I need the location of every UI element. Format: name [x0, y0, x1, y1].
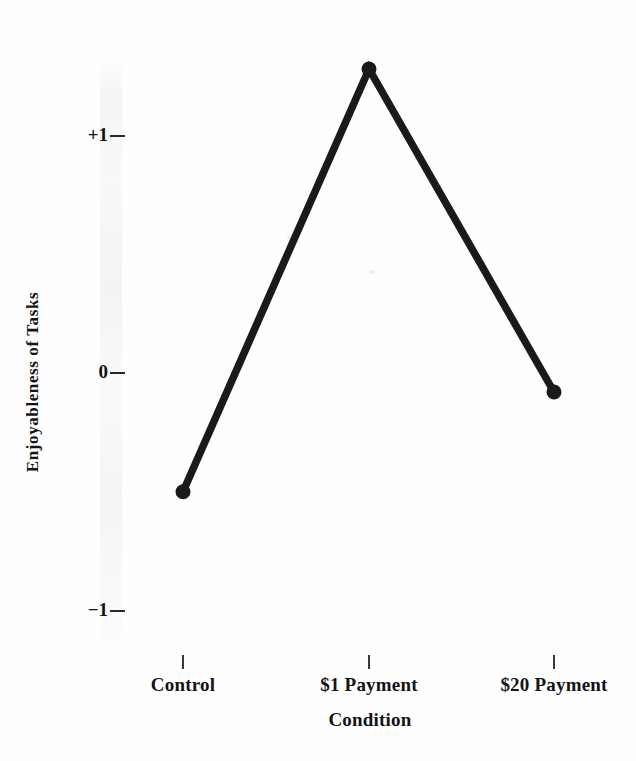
data-line	[183, 69, 554, 492]
data-point-marker	[547, 385, 562, 400]
y-tick-mark	[110, 135, 125, 137]
x-tick-label: $1 Payment	[320, 674, 418, 696]
x-tick-label: Control	[151, 674, 215, 696]
y-tick-label: −1	[88, 599, 108, 621]
y-tick-label: +1	[88, 124, 108, 146]
x-tick-mark	[553, 655, 555, 669]
data-point-marker	[176, 484, 191, 499]
x-axis-title: Condition	[328, 709, 411, 731]
x-tick-mark	[368, 655, 370, 669]
data-marker-group	[176, 62, 562, 500]
line-plot-canvas	[0, 0, 636, 761]
x-tick-mark	[182, 655, 184, 669]
data-point-marker	[362, 62, 377, 77]
y-axis-title: Enjoyableness of Tasks	[23, 292, 43, 472]
y-tick-mark	[110, 372, 125, 374]
chart-figure: Enjoyableness of Tasks +1 0 −1 Control $…	[0, 0, 636, 761]
x-tick-label: $20 Payment	[500, 674, 607, 696]
y-tick-mark	[110, 610, 125, 612]
scan-speck	[287, 236, 291, 239]
y-tick-label: 0	[99, 361, 109, 383]
scan-artifact-column	[100, 60, 122, 660]
scan-speck	[370, 270, 375, 274]
